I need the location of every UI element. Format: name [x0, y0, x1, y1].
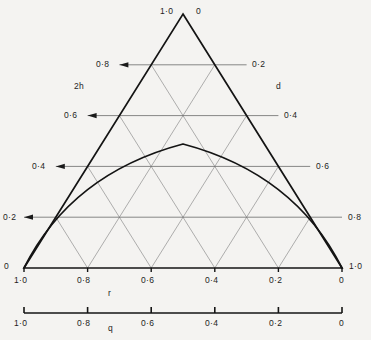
q-scalebar-tick-0: 1·0	[14, 318, 27, 328]
bottom-axis-tick-2: 0·6	[141, 275, 154, 285]
left-axis-tick-2: 0·4	[32, 161, 45, 171]
bottom-axis-name: r	[108, 288, 111, 298]
right-axis-name: d	[276, 81, 281, 91]
q-scalebar-tick-2: 0·6	[141, 318, 154, 328]
right-axis-tick-2: 0·6	[316, 161, 329, 171]
right-axis-tick-0: 0·2	[252, 59, 265, 69]
left-axis-corner-label: 0	[4, 261, 9, 271]
left-axis-name: 2h	[74, 81, 84, 91]
bottom-axis-tick-3: 0·4	[205, 275, 218, 285]
grid-horizontal	[24, 65, 342, 217]
apex-label-left: 1·0	[160, 6, 173, 16]
apex-label-right: 0	[196, 6, 201, 16]
bottom-axis-tick-1: 0·8	[77, 275, 90, 285]
bottom-axis-tick-4: 0·2	[269, 275, 282, 285]
left-axis-tick-0: 0·8	[96, 59, 109, 69]
triangle-outline	[24, 14, 342, 268]
q-scalebar-tick-3: 0·4	[205, 318, 218, 328]
left-axis-tick-1: 0·6	[64, 110, 77, 120]
q-scalebar-tick-1: 0·8	[77, 318, 90, 328]
bottom-axis-tick-5: 0	[339, 275, 344, 285]
right-axis-tick-1: 0·4	[284, 110, 297, 120]
right-axis-tick-3: 0·8	[348, 212, 361, 222]
q-scalebar-tick-4: 0·2	[269, 318, 282, 328]
bottom-axis-tick-0: 1·0	[14, 275, 27, 285]
right-axis-corner-label: 1·0	[349, 261, 362, 271]
q-scalebar-name: q	[108, 323, 113, 333]
q-scalebar-tick-5: 0	[339, 318, 344, 328]
boundary-curve	[24, 144, 342, 268]
left-axis-tick-3: 0·2	[3, 212, 16, 222]
q-scalebar	[24, 307, 342, 313]
